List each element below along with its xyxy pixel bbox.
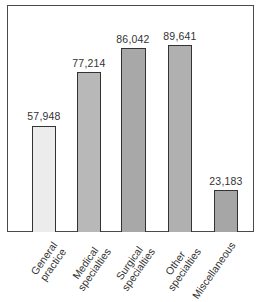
value-label-medical-specialties: 77,214 — [64, 57, 114, 69]
bar-general-practice — [32, 126, 56, 232]
category-label-general-practice: General practice — [29, 240, 68, 283]
bar-medical-specialties — [77, 72, 101, 232]
bar-miscellaneous — [214, 190, 238, 232]
value-label-surgical-specialties: 86,042 — [108, 33, 158, 45]
value-label-other-specialties: 89,641 — [155, 30, 205, 42]
category-label-medical-specialties: Medical specialties — [67, 240, 113, 293]
bar-other-specialties — [168, 45, 192, 232]
value-label-miscellaneous: 23,183 — [201, 175, 251, 187]
bar-surgical-specialties — [121, 48, 146, 232]
category-label-surgical-specialties: Surgical specialties — [111, 240, 157, 293]
value-label-general-practice: 57,948 — [19, 110, 69, 122]
